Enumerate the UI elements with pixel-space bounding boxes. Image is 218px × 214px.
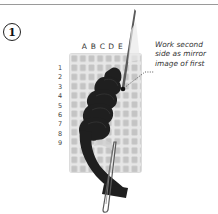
row-label: 4 — [58, 92, 62, 101]
column-label: C — [99, 42, 106, 51]
row-label: 2 — [58, 73, 62, 82]
row-label: 3 — [58, 83, 62, 92]
column-labels: A B C D E — [81, 42, 124, 51]
row-label: 8 — [58, 130, 62, 139]
row-label: 1 — [58, 64, 62, 73]
row-label: 7 — [58, 120, 62, 129]
row-label: 5 — [58, 102, 62, 111]
row-label: 6 — [58, 111, 62, 120]
stitch-illustration — [0, 0, 218, 214]
column-label: A — [81, 42, 88, 51]
column-label: B — [90, 42, 97, 51]
row-label: 9 — [58, 139, 62, 148]
column-label: E — [117, 42, 124, 51]
row-labels: 1 2 3 4 5 6 7 8 9 — [58, 64, 62, 149]
column-label: D — [108, 42, 115, 51]
instruction-callout: Work second side as mirror image of firs… — [155, 40, 218, 68]
callout-line: Work second — [155, 40, 218, 49]
callout-line: side as mirror — [155, 49, 218, 58]
callout-line: image of first — [155, 59, 218, 68]
